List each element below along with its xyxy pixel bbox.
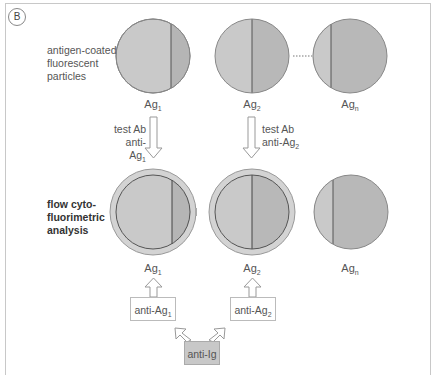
step-line: test Ab — [112, 123, 146, 136]
reagent-anti-ag1: anti-Ag1 — [130, 297, 176, 321]
particles-label-line: fluorescent — [47, 57, 116, 70]
step-line: test Ab — [262, 123, 299, 136]
particle-ag1-bottom — [110, 169, 197, 255]
analysis-label: flow cyto- fluorimetric analysis — [47, 198, 105, 237]
particle-ag2-bottom — [209, 169, 295, 255]
step-line: anti-Ag2 — [262, 136, 299, 153]
label-ag1-top: Ag1 — [133, 98, 173, 112]
particle-ag1-top — [116, 19, 190, 93]
analysis-label-line: fluorimetric — [47, 211, 105, 224]
arrow-diag-right — [209, 328, 225, 342]
arrow-diag-left — [175, 328, 191, 342]
particle-agn-bottom — [314, 175, 388, 249]
step-label-2: test Ab anti-Ag2 — [262, 123, 299, 153]
particles-label: antigen-coated fluorescent particles — [47, 44, 116, 83]
particle-agn-top — [313, 19, 387, 93]
particles-label-line: antigen-coated — [47, 44, 116, 57]
step-line: anti-Ag1 — [112, 136, 146, 166]
arrow-up-1 — [145, 278, 162, 297]
arrow-up-2 — [244, 278, 261, 297]
arrow-down-2 — [243, 117, 260, 158]
analysis-label-line: flow cyto- — [47, 198, 105, 211]
secondary-anti-ig: anti-Ig — [184, 341, 220, 365]
particles-label-line: particles — [47, 70, 116, 83]
label-ag1-bottom: Ag1 — [133, 262, 173, 276]
label-agn-bottom: Agn — [330, 262, 370, 276]
reagent-anti-ag2: anti-Ag2 — [230, 297, 276, 321]
label-ag2-bottom: Ag2 — [232, 262, 272, 276]
analysis-label-line: analysis — [47, 224, 105, 237]
particle-ag2-top — [215, 19, 289, 93]
label-ag2-top: Ag2 — [232, 98, 272, 112]
label-agn-top: Agn — [330, 98, 370, 112]
arrow-down-1 — [145, 117, 162, 158]
step-label-1: test Ab anti-Ag1 — [112, 123, 146, 166]
